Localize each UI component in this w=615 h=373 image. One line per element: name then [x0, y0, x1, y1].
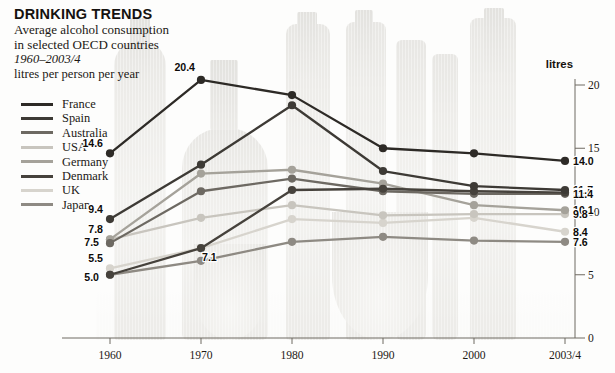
data-label-denmark-1970: 7.1	[202, 251, 217, 263]
data-point-usa	[470, 210, 478, 218]
data-point-spain	[561, 186, 569, 194]
data-label-germany-1960: 7.8	[88, 223, 103, 235]
data-label-france-2003-4: 14.0	[573, 155, 594, 167]
data-point-usa	[197, 214, 205, 222]
x-axis-tick-label: 2003/4	[549, 349, 581, 362]
data-point-japan	[379, 233, 387, 241]
data-label-australia-2003-4: 11.4	[573, 188, 593, 200]
data-point-france	[288, 91, 296, 99]
y-axis-tick-label: 5	[588, 269, 594, 282]
data-point-spain	[379, 167, 387, 175]
data-label-spain-1960: 9.4	[88, 203, 103, 215]
data-point-uk	[561, 228, 569, 236]
data-point-japan	[561, 238, 569, 246]
y-axis-tick-label: 20	[588, 79, 600, 92]
data-label-france-1970: 20.4	[174, 61, 195, 73]
data-label-france-1960: 14.6	[82, 137, 103, 149]
data-point-australia	[197, 187, 205, 195]
series-line-denmark	[110, 189, 565, 275]
data-label-usa-2003-4: 9.8	[573, 208, 588, 220]
data-point-denmark	[288, 186, 296, 194]
data-point-japan	[288, 238, 296, 246]
data-point-denmark	[106, 271, 114, 279]
drinking-trends-chart: DRINKING TRENDS Average alcohol consumpt…	[0, 0, 615, 373]
data-point-germany	[197, 169, 205, 177]
data-point-spain	[197, 161, 205, 169]
data-point-france	[197, 76, 205, 84]
data-point-germany	[288, 166, 296, 174]
data-point-france	[379, 144, 387, 152]
data-point-france	[561, 157, 569, 165]
x-axis-tick-label: 1960	[98, 349, 121, 362]
data-point-spain	[106, 215, 114, 223]
data-point-spain	[288, 101, 296, 109]
plot-area: litres20151050196019701980199020002003/4…	[0, 0, 615, 373]
x-axis-tick-label: 1970	[189, 349, 212, 362]
x-axis-tick-label: 1990	[371, 349, 394, 362]
data-point-uk	[379, 219, 387, 227]
x-axis-tick-label: 1980	[280, 349, 303, 362]
data-point-australia	[288, 175, 296, 183]
data-point-france	[106, 149, 114, 157]
data-point-uk	[288, 215, 296, 223]
y-axis-tick-label: 0	[588, 332, 594, 345]
data-label-uk-1960: 5.5	[88, 252, 103, 264]
data-point-usa	[379, 211, 387, 219]
data-point-germany	[561, 206, 569, 214]
x-axis-tick-label: 2000	[462, 349, 485, 362]
data-label-japan-2003-4: 7.6	[573, 236, 588, 248]
data-label-denmark-1960: 5.0	[84, 271, 99, 283]
data-point-usa	[288, 201, 296, 209]
series-line-france	[110, 80, 565, 161]
data-point-germany	[470, 201, 478, 209]
series-line-uk	[110, 218, 565, 269]
data-point-denmark	[379, 185, 387, 193]
data-point-australia	[106, 239, 114, 247]
data-label-australia-1960: 7.5	[84, 236, 99, 248]
data-point-spain	[470, 182, 478, 190]
y-axis-tick-label: 15	[588, 142, 600, 155]
y-axis-unit-label: litres	[546, 58, 573, 70]
data-point-japan	[470, 236, 478, 244]
data-point-france	[470, 149, 478, 157]
